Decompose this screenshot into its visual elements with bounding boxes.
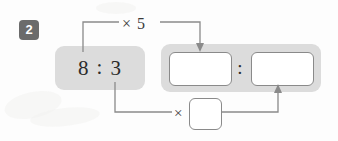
result-consequent-input[interactable] xyxy=(251,52,314,86)
paper-smudge xyxy=(29,104,100,129)
bottom-multiplier-sign: × xyxy=(172,105,184,122)
given-ratio-consequent: 3 xyxy=(110,56,122,81)
bottom-connector-right-leg xyxy=(220,92,278,112)
paper-smudge xyxy=(2,86,64,123)
result-ratio-separator: : xyxy=(234,53,246,83)
given-ratio-antecedent: 8 xyxy=(78,56,90,81)
bottom-multiplier-input[interactable] xyxy=(189,98,222,130)
given-ratio-separator: : xyxy=(90,55,111,80)
paper-smudge xyxy=(96,2,136,14)
given-ratio: 8 : 3 xyxy=(55,46,145,90)
problem-number-badge: 2 xyxy=(19,20,39,40)
worksheet-problem-figure: 2 8 : 3 : × 5 × xyxy=(0,0,338,141)
top-connector-right-leg xyxy=(160,22,200,44)
result-antecedent-input[interactable] xyxy=(169,52,232,86)
top-multiplier-label: × 5 xyxy=(119,15,149,33)
